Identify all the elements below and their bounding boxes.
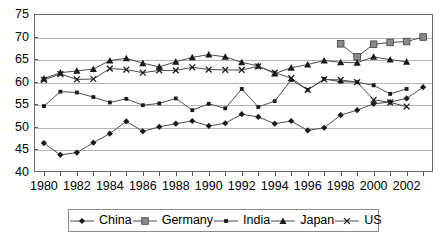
x-tick-mark bbox=[192, 172, 193, 176]
data-point bbox=[140, 128, 146, 134]
data-point bbox=[387, 39, 394, 46]
x-tick-mark bbox=[159, 172, 160, 176]
line-chart: ChinaGermanyIndiaJapanUS 404550556065707… bbox=[0, 0, 447, 239]
legend-item-china[interactable]: China bbox=[69, 214, 132, 227]
legend-item-japan[interactable]: Japan bbox=[270, 214, 334, 227]
y-tick-label: 55 bbox=[1, 98, 29, 110]
x-tick-mark bbox=[60, 172, 61, 176]
data-point bbox=[205, 51, 212, 58]
data-point bbox=[223, 106, 227, 110]
x-tick-mark bbox=[407, 172, 408, 176]
legend-item-india[interactable]: India bbox=[213, 214, 270, 227]
data-point bbox=[305, 87, 311, 93]
data-point bbox=[41, 140, 47, 146]
data-point bbox=[273, 99, 277, 103]
small-square-marker-icon bbox=[213, 215, 239, 227]
data-point bbox=[74, 149, 80, 155]
data-point bbox=[42, 104, 46, 108]
data-point bbox=[403, 38, 410, 45]
data-point bbox=[156, 124, 162, 130]
x-tick-mark bbox=[341, 172, 342, 176]
data-point bbox=[157, 101, 161, 105]
series-line bbox=[44, 79, 407, 110]
data-point bbox=[123, 55, 130, 62]
data-point bbox=[321, 57, 328, 64]
y-tick-label: 45 bbox=[1, 143, 29, 155]
x-tick-mark bbox=[126, 172, 127, 176]
data-point bbox=[370, 53, 377, 60]
data-point bbox=[288, 118, 294, 124]
series-line bbox=[44, 87, 423, 155]
x-tick-mark bbox=[143, 172, 144, 176]
chart-legend: ChinaGermanyIndiaJapanUS bbox=[68, 209, 379, 232]
data-point bbox=[206, 123, 212, 129]
data-point bbox=[222, 120, 228, 126]
legend-item-us[interactable]: US bbox=[334, 214, 381, 227]
data-point bbox=[173, 121, 179, 127]
y-tick-mark bbox=[34, 59, 38, 60]
data-point bbox=[405, 87, 409, 91]
x-tick-mark bbox=[291, 172, 292, 176]
data-point bbox=[124, 97, 128, 101]
data-point bbox=[190, 108, 194, 112]
data-point bbox=[58, 90, 62, 94]
data-point bbox=[420, 34, 427, 41]
series-line bbox=[44, 66, 407, 106]
data-point bbox=[240, 87, 244, 91]
data-point bbox=[108, 101, 112, 105]
series-us bbox=[41, 63, 410, 109]
data-point bbox=[141, 103, 145, 107]
series-line bbox=[341, 37, 423, 57]
y-tick-label: 70 bbox=[1, 31, 29, 43]
y-tick-mark bbox=[34, 149, 38, 150]
data-point bbox=[404, 95, 410, 101]
data-point bbox=[239, 111, 245, 117]
y-tick-label: 40 bbox=[1, 166, 29, 178]
legend-label: China bbox=[97, 214, 132, 227]
data-point bbox=[420, 84, 426, 90]
data-point bbox=[370, 41, 377, 48]
legend-label: India bbox=[241, 214, 270, 227]
y-tick-label: 60 bbox=[1, 76, 29, 88]
legend-label: Germany bbox=[160, 214, 213, 227]
data-point bbox=[255, 114, 261, 120]
series-china bbox=[41, 84, 426, 158]
legend-item-germany[interactable]: Germany bbox=[132, 214, 213, 227]
diamond-marker-icon bbox=[69, 215, 95, 227]
data-point bbox=[90, 65, 97, 72]
series-layer bbox=[34, 14, 433, 172]
data-point bbox=[91, 95, 95, 99]
y-tick-mark bbox=[34, 82, 38, 83]
x-marker-icon bbox=[334, 215, 360, 227]
square-marker-icon bbox=[132, 215, 158, 227]
data-point bbox=[354, 107, 360, 113]
x-tick-mark bbox=[357, 172, 358, 176]
x-tick-mark bbox=[242, 172, 243, 176]
x-tick-mark bbox=[93, 172, 94, 176]
x-tick-mark bbox=[225, 172, 226, 176]
x-tick-mark bbox=[275, 172, 276, 176]
x-tick-mark bbox=[77, 172, 78, 176]
series-germany bbox=[337, 34, 426, 60]
x-tick-mark bbox=[423, 172, 424, 176]
y-tick-label: 65 bbox=[1, 53, 29, 65]
y-tick-label: 50 bbox=[1, 121, 29, 133]
data-point bbox=[272, 121, 278, 127]
data-point bbox=[372, 83, 376, 87]
y-tick-mark bbox=[34, 127, 38, 128]
legend-label: Japan bbox=[298, 214, 334, 227]
y-tick-mark bbox=[34, 37, 38, 38]
x-tick-mark bbox=[308, 172, 309, 176]
y-tick-label: 75 bbox=[1, 8, 29, 20]
legend-label: US bbox=[362, 214, 381, 227]
x-tick-mark bbox=[324, 172, 325, 176]
data-point bbox=[75, 91, 79, 95]
data-point bbox=[388, 92, 392, 96]
x-tick-mark bbox=[374, 172, 375, 176]
data-point bbox=[57, 152, 63, 158]
x-tick-mark bbox=[110, 172, 111, 176]
x-tick-mark bbox=[258, 172, 259, 176]
data-point bbox=[207, 102, 211, 106]
series-india bbox=[42, 77, 409, 112]
data-point bbox=[305, 127, 311, 133]
